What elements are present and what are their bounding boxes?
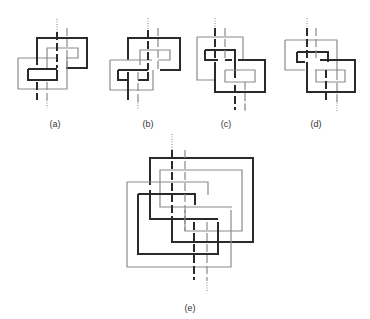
knot-strand <box>197 37 243 80</box>
knot-strand <box>118 70 148 80</box>
panel-label-b: (b) <box>143 119 154 129</box>
diagram-panel-d <box>285 18 355 112</box>
panel-label-e: (e) <box>185 303 196 313</box>
knot-strand <box>110 60 153 90</box>
diagram-panel-b <box>110 18 180 110</box>
panel-label-d: (d) <box>311 119 322 129</box>
diagram-panel-c <box>197 18 265 112</box>
panel-label-c: (c) <box>221 119 232 129</box>
diagram-panel-e <box>127 134 253 292</box>
knot-strand <box>315 70 345 82</box>
knot-strand <box>37 38 87 68</box>
knot-strand <box>307 60 355 92</box>
knot-strand <box>128 38 180 70</box>
knot-strand <box>140 50 170 65</box>
knot-strand <box>205 50 235 78</box>
knot-strand <box>28 69 57 80</box>
knot-strand <box>285 40 337 72</box>
knot-strand <box>18 58 67 89</box>
knot-strand <box>47 48 78 70</box>
panel-label-a: (a) <box>50 119 61 129</box>
knot-strand <box>225 70 255 82</box>
knot-diagram-figure <box>0 0 370 319</box>
diagram-panel-a <box>18 19 87 108</box>
knot-strand <box>215 60 265 92</box>
